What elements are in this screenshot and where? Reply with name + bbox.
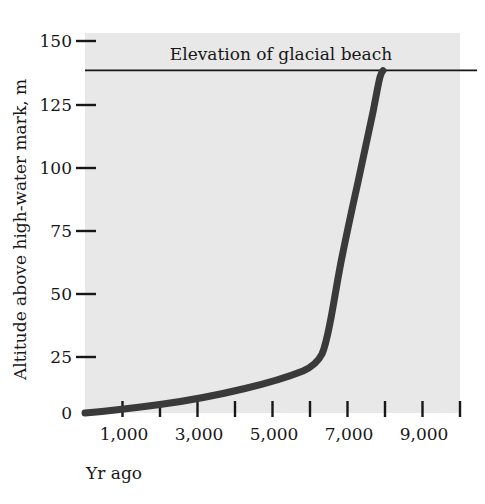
x-tick-label-3000: 3,000 — [175, 424, 224, 444]
x-axis-tick-labels: 1,000 3,000 5,000 7,000 9,000 — [100, 424, 449, 444]
y-tick-label-125: 125 — [40, 95, 72, 115]
y-tick-label-75: 75 — [50, 221, 72, 241]
chart-figure: 150 125 100 75 50 25 0 1,000 3,000 5,000 — [0, 0, 485, 504]
y-tick-label-0: 0 — [61, 403, 72, 423]
x-axis-title: Yr ago — [85, 463, 142, 483]
y-tick-label-150: 150 — [40, 31, 72, 51]
y-axis-tick-labels: 150 125 100 75 50 25 0 — [40, 31, 72, 423]
x-tick-label-1000: 1,000 — [100, 424, 149, 444]
y-tick-label-100: 100 — [40, 158, 72, 178]
plot-area-background — [85, 33, 460, 413]
x-tick-label-9000: 9,000 — [400, 424, 449, 444]
chart-svg: 150 125 100 75 50 25 0 1,000 3,000 5,000 — [0, 0, 485, 504]
x-tick-label-5000: 5,000 — [250, 424, 299, 444]
y-tick-label-50: 50 — [50, 284, 72, 304]
glacial-beach-annotation: Elevation of glacial beach — [170, 44, 392, 64]
y-tick-label-25: 25 — [50, 347, 72, 367]
y-axis-title: Altitude above high-water mark, m — [10, 79, 30, 381]
x-tick-label-7000: 7,000 — [325, 424, 374, 444]
